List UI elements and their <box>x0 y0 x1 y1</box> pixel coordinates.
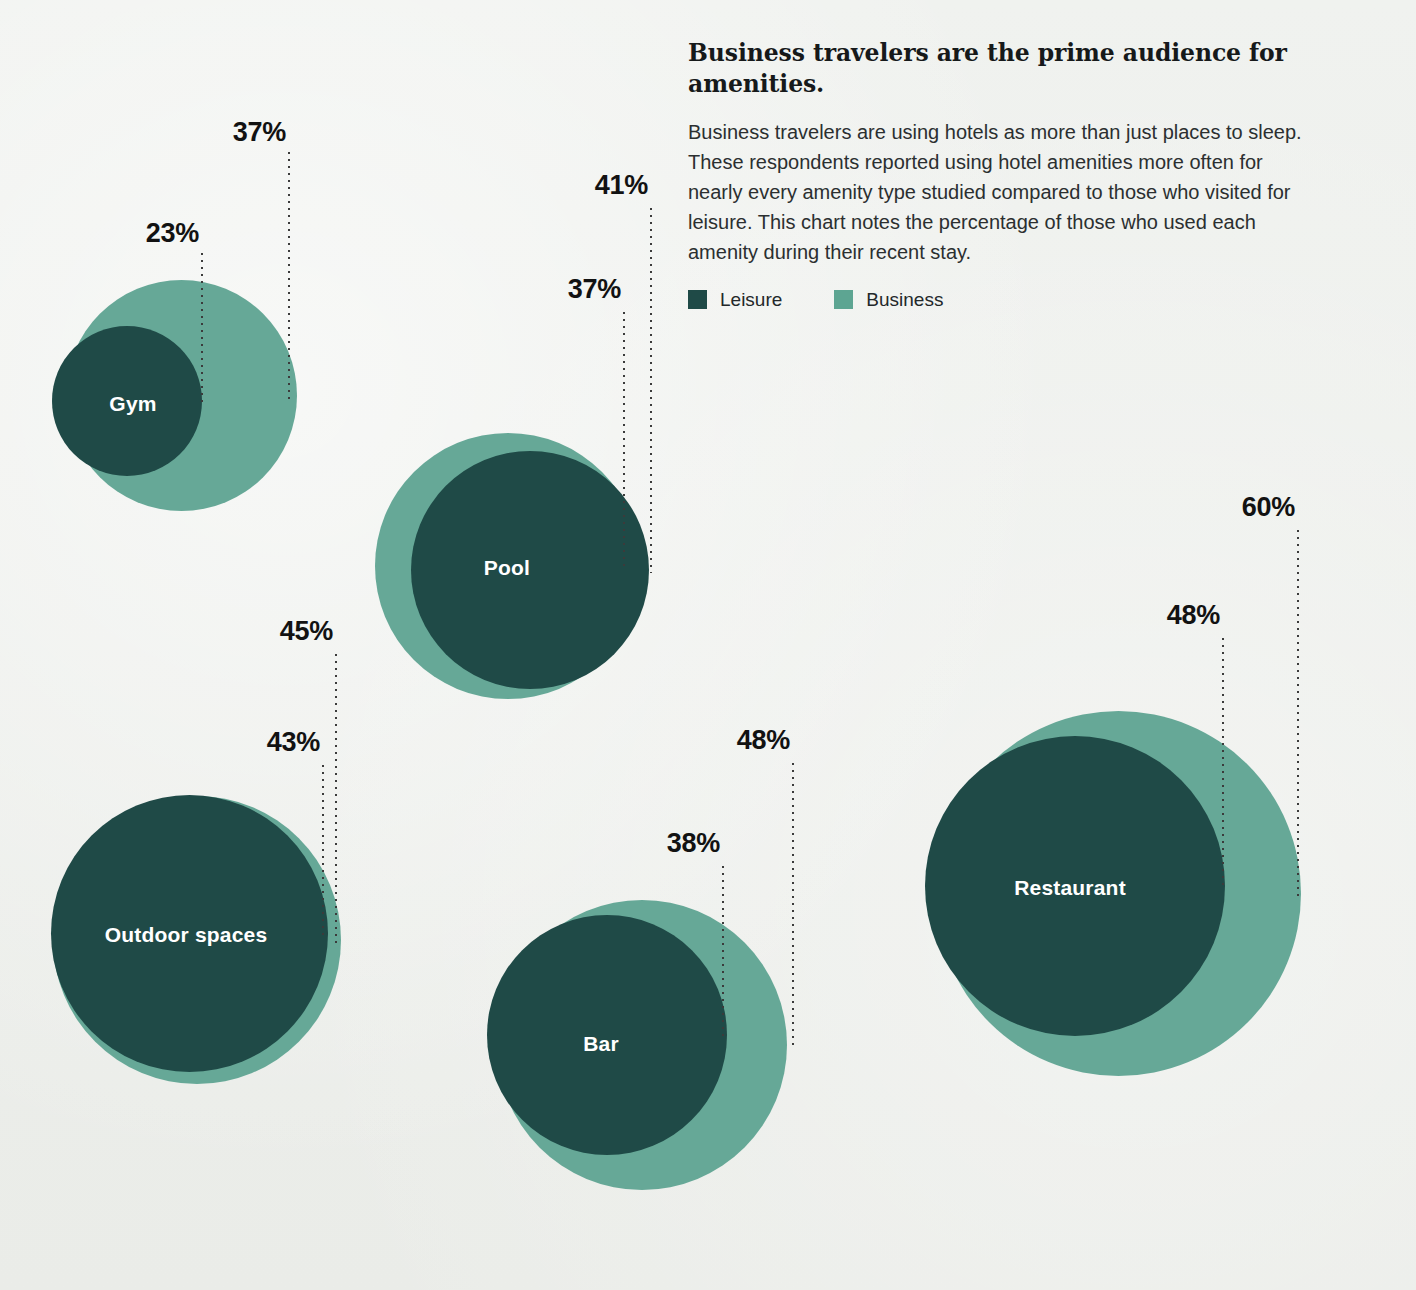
leader-line-business-gym <box>288 152 290 400</box>
value-label-business-gym: 37% <box>233 117 286 148</box>
leader-line-leisure-bar <box>722 866 724 1038</box>
legend-item-leisure: Leisure <box>688 289 782 311</box>
chart-legend: Leisure Business <box>688 289 1312 311</box>
leader-line-business-pool <box>623 312 625 568</box>
leader-line-leisure-gym <box>201 253 203 403</box>
page-title: Business travelers are the prime audienc… <box>688 38 1312 101</box>
legend-label-leisure: Leisure <box>720 289 782 311</box>
bubble-label-restaurant: Restaurant <box>1014 876 1126 900</box>
value-label-leisure-outdoor-spaces: 43% <box>267 727 320 758</box>
value-label-leisure-pool: 41% <box>595 170 648 201</box>
leader-line-business-bar <box>792 763 794 1048</box>
leader-line-business-outdoor-spaces <box>335 654 337 944</box>
value-label-business-bar: 48% <box>737 725 790 756</box>
leader-line-leisure-pool <box>650 208 652 573</box>
value-label-leisure-restaurant: 48% <box>1167 600 1220 631</box>
value-label-leisure-bar: 38% <box>667 828 720 859</box>
bubble-label-gym: Gym <box>109 392 156 416</box>
legend-swatch-leisure-icon <box>688 290 707 309</box>
leader-line-leisure-outdoor-spaces <box>322 765 324 937</box>
legend-label-business: Business <box>866 289 943 311</box>
legend-swatch-business-icon <box>834 290 853 309</box>
bubble-label-pool: Pool <box>484 556 530 580</box>
leader-line-leisure-restaurant <box>1222 638 1224 890</box>
value-label-business-pool: 37% <box>568 274 621 305</box>
description-panel: Business travelers are the prime audienc… <box>688 38 1312 311</box>
legend-item-business: Business <box>834 289 943 311</box>
leader-line-business-restaurant <box>1297 530 1299 898</box>
bubble-label-bar: Bar <box>583 1032 619 1056</box>
value-label-business-restaurant: 60% <box>1242 492 1295 523</box>
value-label-business-outdoor-spaces: 45% <box>280 616 333 647</box>
bubble-label-outdoor-spaces: Outdoor spaces <box>105 923 268 947</box>
value-label-leisure-gym: 23% <box>146 218 199 249</box>
description-text: Business travelers are using hotels as m… <box>688 117 1312 267</box>
